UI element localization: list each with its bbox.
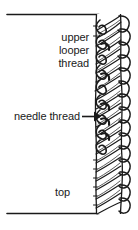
stitch-diagram-page: upper looper thread needle thread top <box>0 0 138 230</box>
overlock-stitch-column <box>94 14 131 214</box>
upper-looper-thread-label-line2: looper <box>58 44 89 57</box>
upper-looper-thread-label-line1: upper <box>58 31 89 44</box>
needle-thread-label: needle thread <box>14 110 80 123</box>
top-label: top <box>55 186 70 199</box>
upper-looper-thread-label: upper looper thread <box>58 31 89 70</box>
upper-looper-thread-label-line3: thread <box>58 57 89 70</box>
